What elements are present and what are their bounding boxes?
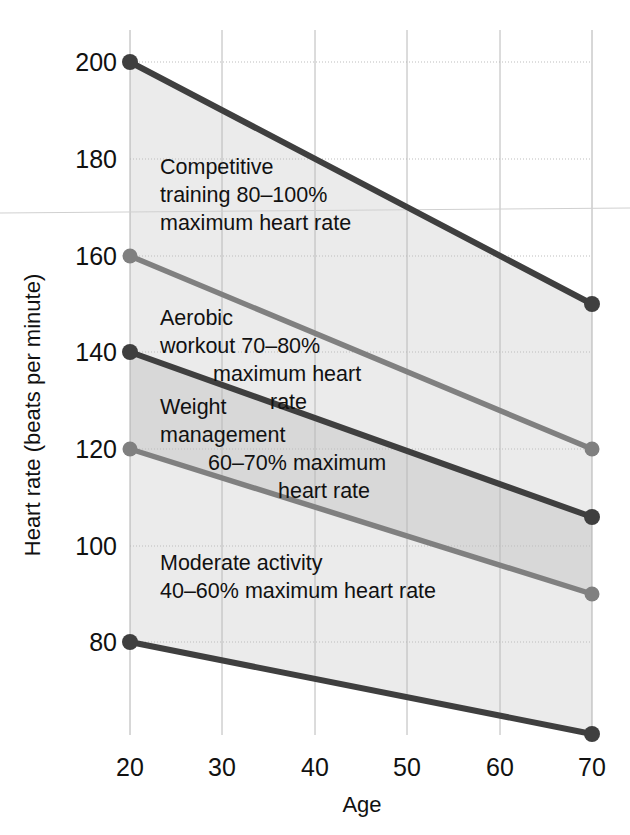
annotation-line: Weight [160, 395, 227, 419]
annotation-line: workout 70–80% [159, 334, 320, 358]
annotation-line: rate [270, 390, 307, 414]
x-tick-70: 70 [578, 753, 606, 781]
annotation-line: training 80–100% [160, 183, 327, 207]
x-tick-30: 30 [208, 753, 236, 781]
annotation-line: management [160, 423, 286, 447]
annotation-line: 60–70% maximum [208, 451, 386, 475]
annotation-line: Competitive [160, 155, 274, 179]
y-tick-180: 180 [75, 145, 117, 173]
chart-svg: 200 180 160 140 120 100 80 20 30 40 50 6… [0, 0, 630, 835]
y-tick-200: 200 [75, 48, 117, 76]
annotation-line: Aerobic [160, 306, 233, 330]
y-tick-100: 100 [75, 532, 117, 560]
annotation-line: maximum heart rate [160, 211, 351, 235]
y-tick-160: 160 [75, 242, 117, 270]
y-axis-title: Heart rate (beats per minute) [20, 274, 45, 556]
y-tick-80: 80 [89, 628, 117, 656]
y-tick-120: 120 [75, 435, 117, 463]
annotation-line: heart rate [278, 479, 370, 503]
x-axis-tick-labels: 20 30 40 50 60 70 [116, 753, 606, 781]
annotation-line: Moderate activity [160, 551, 323, 575]
x-tick-20: 20 [116, 753, 144, 781]
annotation-line: maximum heart [213, 362, 361, 386]
y-axis-tick-labels: 200 180 160 140 120 100 80 [75, 48, 117, 656]
annotation-line: 40–60% maximum heart rate [160, 579, 436, 603]
y-tick-140: 140 [75, 338, 117, 366]
heart-rate-zone-chart: 200 180 160 140 120 100 80 20 30 40 50 6… [0, 0, 630, 835]
x-tick-50: 50 [393, 753, 421, 781]
x-tick-40: 40 [301, 753, 329, 781]
x-axis-title: Age [342, 792, 381, 817]
x-tick-60: 60 [486, 753, 514, 781]
